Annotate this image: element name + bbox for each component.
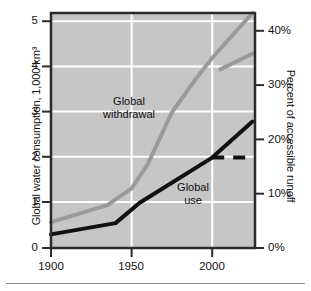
y2-tick-label-0: 0% [268, 241, 302, 253]
series-label-global-use: Global use [165, 181, 221, 206]
y-tick-label-5: 5 [14, 14, 38, 26]
y2-tick-label-20: 20% [268, 133, 302, 145]
y-tick-label-4: 4 [14, 59, 38, 71]
y2-tick-label-10: 10% [268, 187, 302, 199]
y-tick-label-0: 0 [14, 241, 38, 253]
left-axis-ticks [42, 21, 51, 248]
chart-canvas [0, 0, 311, 291]
series-label-global-use-line1: Global [165, 181, 221, 194]
water-consumption-chart: Global water consumption, 1,000 km³ Perc… [0, 0, 311, 291]
series-label-global-withdrawal-line2: withdrawal [92, 108, 166, 121]
y-tick-label-2: 2 [14, 150, 38, 162]
series-label-global-withdrawal-line1: Global [92, 95, 166, 108]
right-axis-ticks [255, 31, 264, 248]
y-tick-label-1: 1 [14, 195, 38, 207]
y2-tick-label-30: 30% [268, 78, 302, 90]
series-label-global-use-line2: use [165, 194, 221, 207]
x-tick-label-1950: 1950 [108, 260, 154, 272]
bottom-divider [6, 283, 305, 284]
series-label-global-withdrawal: Global withdrawal [92, 95, 166, 120]
y2-tick-label-40: 40% [268, 24, 302, 36]
y-axis-left-title: Global water consumption, 1,000 km³ [30, 16, 42, 256]
y-tick-label-3: 3 [14, 105, 38, 117]
x-tick-label-1900: 1900 [28, 260, 74, 272]
x-tick-label-2000: 2000 [189, 260, 235, 272]
x-axis [42, 248, 264, 257]
